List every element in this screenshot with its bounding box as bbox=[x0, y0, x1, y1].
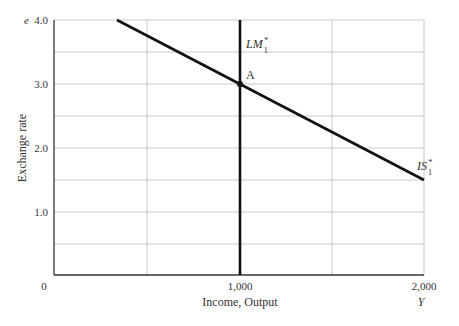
y-tick-1: 1.0 bbox=[34, 206, 48, 218]
y-tick-3: 3.0 bbox=[34, 78, 48, 90]
x-var-label: Y bbox=[418, 295, 426, 309]
is-curve bbox=[117, 20, 424, 180]
y-axis-title: Exchange rate bbox=[15, 114, 29, 182]
x-axis-title: Income, Output bbox=[202, 295, 278, 309]
y-tick-2: 2.0 bbox=[34, 142, 48, 154]
chart: e 4.0 3.0 2.0 1.0 Exchange rate 0 1,000 … bbox=[0, 0, 459, 326]
y-var-label: e bbox=[24, 14, 29, 26]
x-tick-1000: 1,000 bbox=[228, 280, 253, 292]
x-tick-2000: 2,000 bbox=[412, 280, 437, 292]
equilibrium-point bbox=[237, 81, 243, 87]
y-tick-4: 4.0 bbox=[34, 14, 48, 26]
point-a-label: A bbox=[246, 68, 255, 82]
x-tick-0: 0 bbox=[41, 280, 47, 292]
